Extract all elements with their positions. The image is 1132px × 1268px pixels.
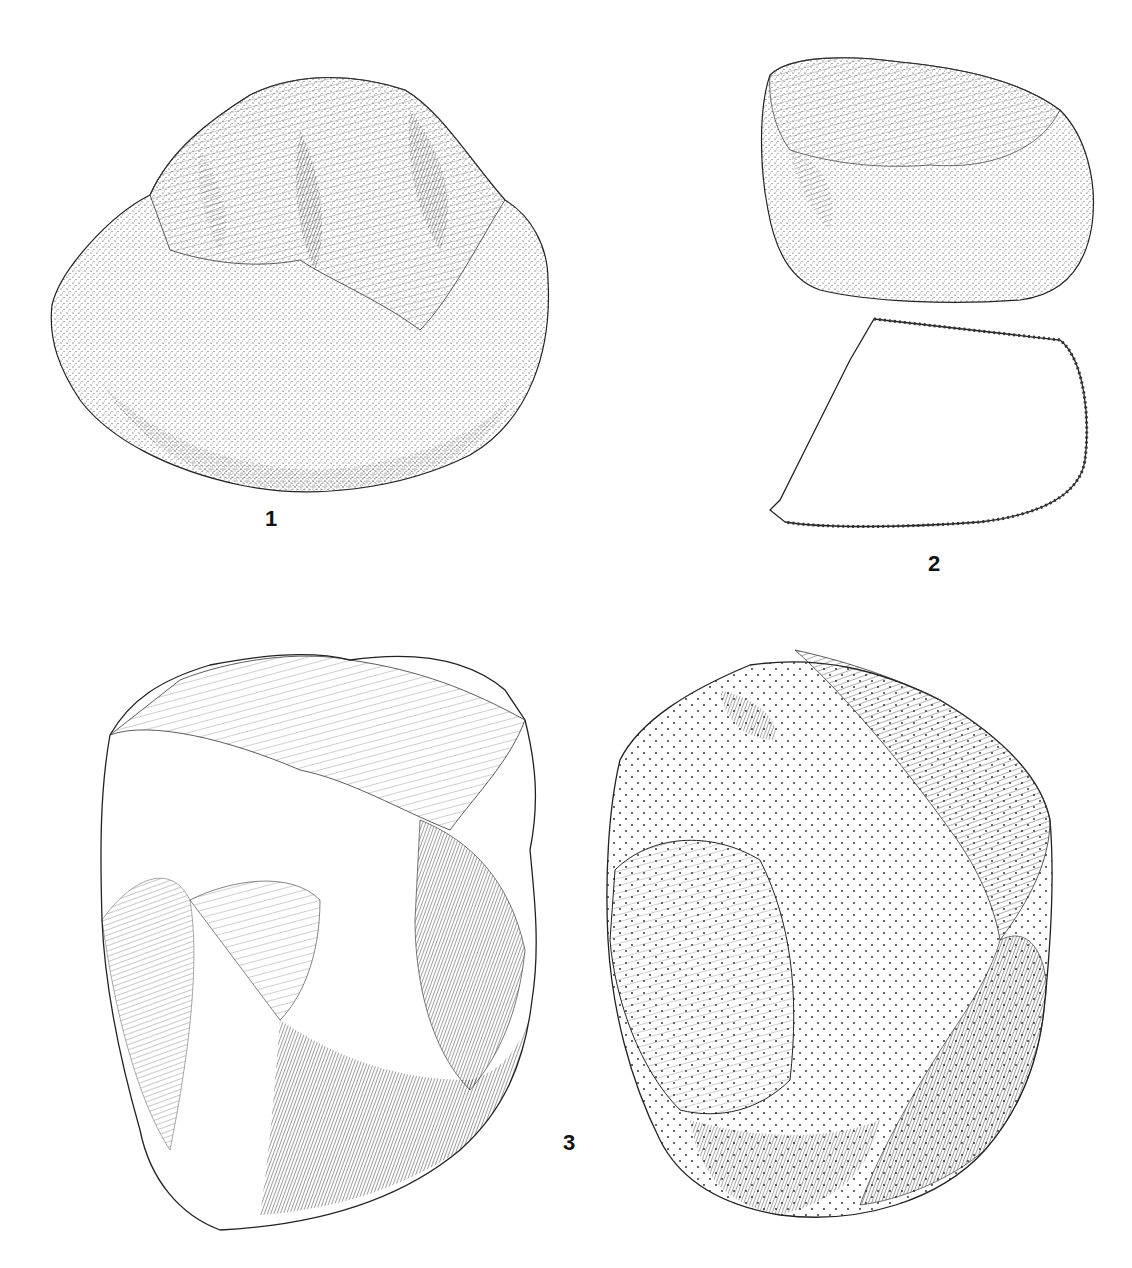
figure-label-1: 1 [265, 508, 277, 530]
figure-label-3: 3 [563, 1132, 575, 1154]
artifact-drawings [0, 0, 1132, 1268]
figure-3-view-b-drawing [607, 650, 1052, 1217]
illustration-plate: 1 2 3 [0, 0, 1132, 1268]
figure-2-drawing [762, 58, 1094, 527]
figure-1-drawing [51, 78, 548, 492]
figure-3-view-a-drawing [101, 655, 536, 1230]
figure-label-2: 2 [928, 553, 940, 575]
